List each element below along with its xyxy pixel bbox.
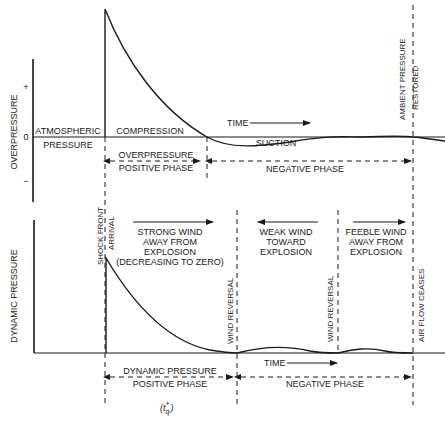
strong-wind-line-3: EXPLOSION xyxy=(144,247,196,257)
restored-label: RESTORED xyxy=(411,65,420,110)
suction-label: SUCTION xyxy=(256,138,297,148)
overpressure-positive-label-2: POSITIVE PHASE xyxy=(119,163,194,173)
dynamic-axis-label: DYNAMIC PRESSURE xyxy=(9,249,19,343)
duration-close: ) xyxy=(170,403,174,413)
wind-reversal-1-label: WIND REVERSAL xyxy=(226,277,235,344)
guide-lines xyxy=(105,5,413,405)
wind-reversal-2-label: WIND REVERSAL xyxy=(326,275,335,342)
overpressure-panel: OVERPRESSURE + 0 − ATMOSPHERIC PRESSURE … xyxy=(9,9,445,202)
compression-label: COMPRESSION xyxy=(116,126,184,136)
arrival-label: ARRIVAL xyxy=(107,216,116,250)
shock-front-label: SHOCK FRONT xyxy=(96,207,105,265)
dynamic-pressure-panel: DYNAMIC PRESSURE STRONG WIND AWAY FROM E… xyxy=(9,220,445,416)
feeble-wind-line-1: FEEBLE WIND xyxy=(345,227,407,237)
pressure-label: PRESSURE xyxy=(43,140,93,150)
tick-plus: + xyxy=(23,82,28,92)
strong-wind-line-2: AWAY FROM xyxy=(143,237,197,247)
dynamic-positive-label-2: POSITIVE PHASE xyxy=(133,379,208,389)
overpressure-axis-label: OVERPRESSURE xyxy=(9,94,19,169)
weak-wind-line-2: TOWARD xyxy=(266,237,306,247)
atmospheric-label: ATMOSPHERIC xyxy=(35,126,101,136)
strong-wind-line-4: (DECREASING TO ZERO) xyxy=(116,257,224,267)
tick-minus: − xyxy=(23,176,28,186)
dynamic-negative-label: NEGATIVE PHASE xyxy=(286,379,364,389)
dynamic-positive-label-1: DYNAMIC PRESSURE xyxy=(123,366,217,376)
overpressure-positive-label-1: OVERPRESSURE xyxy=(118,150,193,160)
dynamic-pressure-curve xyxy=(106,258,413,353)
duration-superscript: + xyxy=(165,400,169,407)
svg-text:(tq+): (tq+) xyxy=(160,400,174,416)
feeble-wind-line-2: AWAY FROM xyxy=(349,237,403,247)
tick-zero: 0 xyxy=(23,132,28,142)
weak-wind-line-1: WEAK WIND xyxy=(260,227,313,237)
duration-symbol: (tq+) xyxy=(160,400,174,416)
weak-wind-line-3: EXPLOSION xyxy=(260,247,312,257)
overpressure-negative-label: NEGATIVE PHASE xyxy=(266,164,344,174)
blast-wave-diagram: OVERPRESSURE + 0 − ATMOSPHERIC PRESSURE … xyxy=(0,0,445,423)
duration-subscript: q xyxy=(166,408,170,416)
feeble-wind-line-3: EXPLOSION xyxy=(350,247,402,257)
strong-wind-line-1: STRONG WIND xyxy=(138,227,203,237)
air-flow-ceases-label: AIR FLOW CEASES xyxy=(417,269,426,342)
time-label-bottom: TIME xyxy=(264,358,286,368)
time-label-top: TIME xyxy=(227,118,249,128)
ambient-pressure-label: AMBIENT PRESSURE xyxy=(398,38,407,120)
